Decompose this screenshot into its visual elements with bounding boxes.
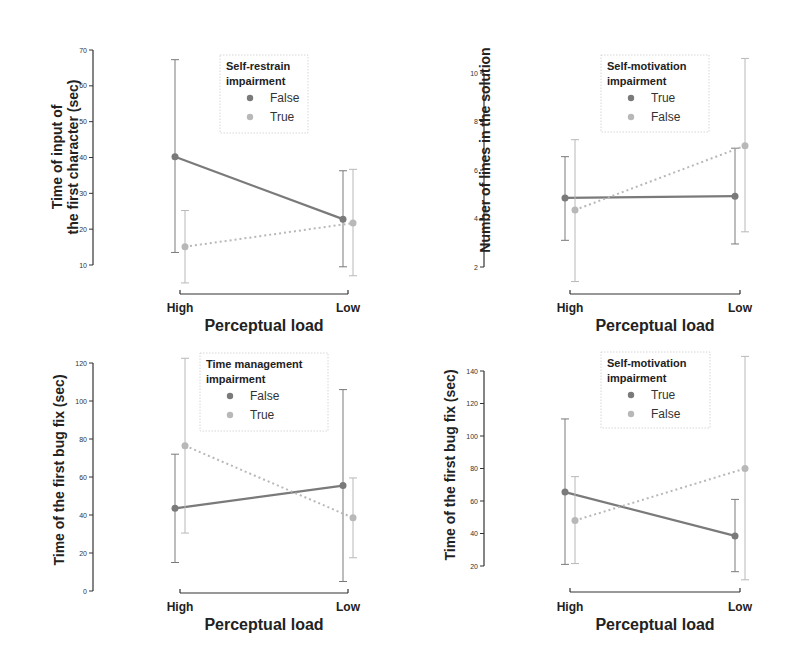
series-true [561, 148, 739, 244]
y-tick-label: 20 [470, 563, 478, 570]
legend-marker-icon [628, 114, 634, 120]
y-tick-label: 100 [466, 433, 478, 440]
legend-label: True [651, 91, 676, 105]
x-tick-label: Low [728, 600, 753, 614]
data-point [340, 482, 347, 489]
data-point [340, 216, 347, 223]
data-point [572, 207, 579, 214]
legend-title: Self-motivation [607, 357, 687, 369]
x-axis: HighLow [557, 588, 753, 614]
legend-label: False [651, 110, 681, 124]
x-axis-label: Perceptual load [595, 616, 714, 633]
legend-marker-icon [247, 95, 253, 101]
data-point [732, 532, 739, 539]
legend-title: impairment [607, 75, 667, 87]
y-tick-label: 60 [470, 498, 478, 505]
legend-label: False [250, 389, 280, 403]
y-tick-label: 120 [466, 400, 478, 407]
x-axis: HighLow [167, 290, 361, 315]
x-tick-label: High [167, 600, 194, 614]
y-tick-label: 100 [75, 398, 87, 405]
y-tick-label: 80 [79, 436, 87, 443]
data-point [742, 465, 749, 472]
y-tick-label: 120 [75, 360, 87, 367]
legend-title: Self-motivation [607, 60, 687, 72]
y-tick-label: 80 [470, 465, 478, 472]
y-axis: 10203040506070 [79, 47, 93, 269]
data-point [350, 220, 357, 227]
y-tick-label: 40 [79, 512, 87, 519]
data-point [732, 193, 739, 200]
data-point [182, 243, 189, 250]
series-line [185, 223, 353, 247]
y-axis: 020406080100120 [75, 360, 93, 595]
data-point [172, 505, 179, 512]
x-axis-label: Perceptual load [204, 317, 323, 334]
legend-title: impairment [607, 372, 667, 384]
series-line [575, 146, 745, 210]
y-tick-label: 20 [79, 550, 87, 557]
x-tick-label: High [557, 600, 584, 614]
legend: Self-motivationimpairmentTrueFalse [601, 55, 709, 132]
data-point [182, 442, 189, 449]
figure-grid: 10203040506070Time of input ofthe first … [0, 0, 793, 672]
y-axis-label: Time of the first bug fix (sec) [51, 374, 67, 565]
y-axis-label: Number of lines in the solution [477, 47, 493, 252]
x-tick-label: High [167, 301, 194, 315]
panel-4: 20406080100120140Time of the first bug f… [442, 352, 753, 633]
legend-marker-icon [628, 392, 634, 398]
legend-title: Self-restrain [226, 60, 290, 72]
legend-marker-icon [227, 393, 233, 399]
legend-title: impairment [226, 75, 286, 87]
y-tick-label: 60 [79, 474, 87, 481]
y-axis-label: Time of input ofthe first character (sec… [49, 80, 81, 235]
legend-label: False [270, 91, 300, 105]
data-point [350, 514, 357, 521]
legend: Self-restrainimpairmentFalseTrue [220, 55, 308, 133]
legend-marker-icon [247, 114, 253, 120]
legend-marker-icon [227, 412, 233, 418]
y-tick-label: 140 [466, 368, 478, 375]
panel-1: 10203040506070Time of input ofthe first … [49, 47, 361, 335]
y-tick-label: 10 [79, 262, 87, 269]
x-axis: HighLow [167, 589, 361, 614]
x-tick-label: Low [728, 301, 753, 315]
y-tick-label: 2 [474, 264, 478, 271]
data-point [562, 489, 569, 496]
legend-marker-icon [628, 411, 634, 417]
x-axis-label: Perceptual load [595, 317, 714, 334]
legend-label: True [270, 110, 295, 124]
data-point [572, 517, 579, 524]
series-true [181, 169, 357, 283]
legend-label: True [250, 408, 275, 422]
data-point [172, 153, 179, 160]
legend-title: Time management [206, 358, 303, 370]
legend: Self-motivationimpairmentTrueFalse [601, 352, 710, 428]
series-line [185, 446, 353, 518]
figure-svg: 10203040506070Time of input ofthe first … [0, 0, 793, 672]
data-point [742, 142, 749, 149]
x-axis: HighLow [557, 290, 753, 315]
series-line [175, 486, 343, 509]
x-axis-label: Perceptual load [204, 616, 323, 633]
y-axis-label: Time of the first bug fix (sec) [442, 369, 458, 560]
legend: Time managementimpairmentFalseTrue [200, 353, 328, 431]
legend-label: False [651, 407, 681, 421]
x-tick-label: Low [336, 301, 361, 315]
panel-2: 246810Number of lines in the solutionHig… [470, 47, 752, 334]
legend-title: impairment [206, 373, 266, 385]
legend-marker-icon [628, 95, 634, 101]
y-tick-label: 70 [79, 47, 87, 54]
series-line [175, 157, 343, 219]
data-point [562, 194, 569, 201]
series-line [575, 469, 745, 521]
series-line [565, 492, 735, 536]
x-tick-label: High [557, 301, 584, 315]
y-tick-label: 0 [83, 588, 87, 595]
series-line [565, 196, 735, 198]
series-true [561, 419, 739, 572]
y-axis: 20406080100120140 [466, 368, 484, 570]
legend-label: True [651, 388, 676, 402]
panel-3: 020406080100120Time of the first bug fix… [51, 353, 361, 633]
x-tick-label: Low [336, 600, 361, 614]
